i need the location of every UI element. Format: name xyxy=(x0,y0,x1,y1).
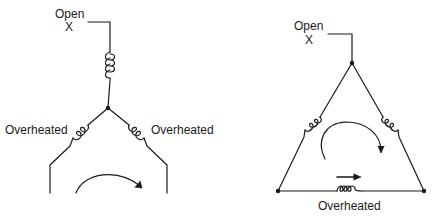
wye-left-winding-label: Overheated xyxy=(5,124,68,136)
delta-open-mark: X xyxy=(305,34,313,46)
delta-open-lead xyxy=(328,34,352,63)
delta-rotation-arrow xyxy=(321,122,381,159)
delta-open-label: Open xyxy=(294,20,323,32)
wye-open-label: Open xyxy=(55,8,84,20)
wye-top-coil-icon xyxy=(106,52,115,78)
wye-open-lead xyxy=(88,22,110,52)
delta-bottom-coil-icon xyxy=(337,186,362,191)
wye-right-winding-label: Overheated xyxy=(151,124,214,136)
delta-right-coil-icon xyxy=(382,117,398,131)
wye-open-mark: X xyxy=(65,21,73,33)
wye-connection xyxy=(50,22,167,193)
wye-right-coil-icon xyxy=(129,125,144,140)
delta-connection xyxy=(276,34,425,193)
delta-left-coil-icon xyxy=(305,117,321,131)
wye-left-coil-icon xyxy=(73,125,88,140)
wye-rotation-arrow xyxy=(76,175,140,193)
delta-bottom-winding-label: Overheated xyxy=(318,200,381,212)
